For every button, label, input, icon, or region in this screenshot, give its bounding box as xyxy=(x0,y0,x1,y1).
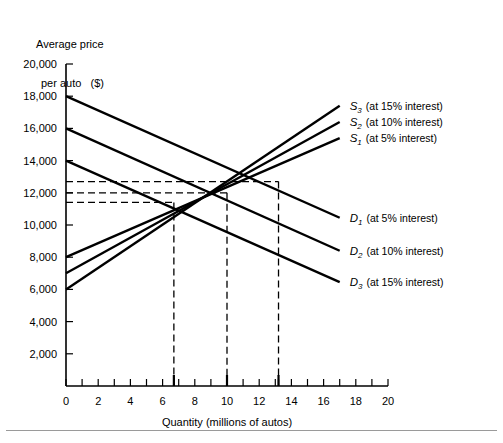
x-tick-label: 16 xyxy=(317,395,329,407)
x-tick-label: 6 xyxy=(160,395,166,407)
x-tick-label: 4 xyxy=(127,395,133,407)
y-tick-label: 2,000 xyxy=(29,348,57,360)
series-subscript: 1 xyxy=(357,138,361,147)
y-tick-label: 10,000 xyxy=(23,219,57,231)
x-tick-label: 10 xyxy=(221,395,233,407)
series-note: (at 5% interest) xyxy=(366,132,437,144)
x-tick-label: 0 xyxy=(63,395,69,407)
series-note: (at 15% interest) xyxy=(366,100,443,112)
series-note: (at 10% interest) xyxy=(366,245,443,257)
x-tick-label: 2 xyxy=(95,395,101,407)
series-note: (at 5% interest) xyxy=(366,212,437,224)
y-axis-title: Average price per auto ($) xyxy=(36,12,104,116)
x-tick-label: 12 xyxy=(253,395,265,407)
y-tick-label: 4,000 xyxy=(29,316,57,328)
series-label-d1: D1(at 5% interest) xyxy=(350,212,438,227)
y-axis-title-line2: per auto ($) xyxy=(36,77,104,90)
x-tick-label: 18 xyxy=(350,395,362,407)
series-symbol: D xyxy=(350,276,358,288)
x-tick-label: 14 xyxy=(285,395,297,407)
y-axis-title-line1: Average price xyxy=(36,38,104,51)
y-tick-label: 16,000 xyxy=(23,122,57,134)
series-subscript: 2 xyxy=(356,122,362,131)
footer-divider xyxy=(6,430,497,431)
series-label-d3: D3(at 15% interest) xyxy=(350,276,444,291)
y-tick-label: 8,000 xyxy=(29,251,57,263)
y-tick-label: 12,000 xyxy=(23,187,57,199)
series-label-s2: S2(at 10% interest) xyxy=(350,116,443,131)
series-label-d2: D2(at 10% interest) xyxy=(350,245,444,260)
series-symbol: D xyxy=(350,245,358,257)
figure-panel: Average price per auto ($) 2,0004,0006,0… xyxy=(0,0,503,443)
series-note: (at 15% interest) xyxy=(366,276,443,288)
series-note: (at 10% interest) xyxy=(366,116,443,128)
y-tick-label: 6,000 xyxy=(29,283,57,295)
x-axis-ticks: 02468101214161820 xyxy=(63,375,394,407)
y-tick-label: 14,000 xyxy=(23,155,57,167)
series-subscript: 3 xyxy=(357,106,362,115)
x-tick-label: 20 xyxy=(382,395,394,407)
series-label-s3: S3(at 15% interest) xyxy=(350,100,443,115)
curve-d3 xyxy=(66,161,340,283)
series-subscript: 2 xyxy=(357,251,363,260)
series-subscript: 3 xyxy=(358,282,363,291)
curve-d2 xyxy=(66,128,340,250)
series-subscript: 1 xyxy=(358,218,362,227)
x-axis-title: Quantity (millions of autos) xyxy=(162,416,292,428)
series-labels: S3(at 15% interest)S2(at 10% interest)S1… xyxy=(350,100,444,291)
x-tick-label: 8 xyxy=(192,395,198,407)
series-symbol: D xyxy=(350,212,358,224)
series-label-s1: S1(at 5% interest) xyxy=(350,132,437,147)
